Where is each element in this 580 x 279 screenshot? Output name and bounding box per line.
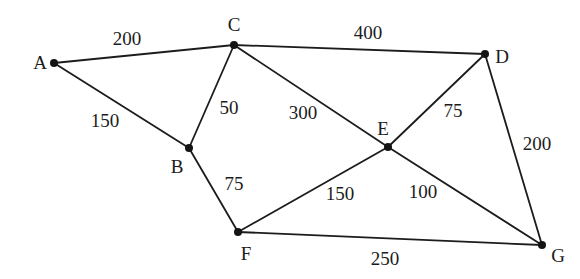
edge-A-C [54, 45, 234, 63]
edge-weight-A-B: 150 [91, 110, 120, 131]
node-D [481, 50, 489, 58]
edge-weight-E-G: 100 [409, 181, 438, 202]
edge-C-D [234, 45, 485, 54]
node-label-C: C [228, 14, 241, 35]
node-G [538, 241, 546, 249]
node-label-G: G [551, 245, 565, 266]
graph-diagram: 200150504003007520075150100250ABCDEFG [0, 0, 580, 279]
edge-F-G [238, 232, 542, 245]
node-C [230, 41, 238, 49]
edge-weight-D-G: 200 [523, 133, 552, 154]
edge-C-E [234, 45, 388, 147]
edge-E-F [238, 147, 388, 232]
edge-weight-E-F: 150 [326, 183, 355, 204]
node-B [185, 144, 193, 152]
edge-A-B [54, 63, 189, 148]
node-label-B: B [171, 156, 184, 177]
node-A [50, 59, 58, 67]
edge-weight-C-D: 400 [354, 22, 383, 43]
edge-D-E [388, 54, 485, 147]
graph-figure: 200150504003007520075150100250ABCDEFG [0, 0, 580, 279]
edge-weight-B-C: 50 [220, 97, 239, 118]
node-label-E: E [377, 118, 389, 139]
edge-weight-C-E: 300 [289, 102, 318, 123]
node-label-D: D [495, 46, 509, 67]
edge-weight-F-G: 250 [371, 248, 400, 269]
edge-weight-D-E: 75 [444, 100, 463, 121]
node-F [234, 228, 242, 236]
node-E [384, 143, 392, 151]
edge-weight-A-C: 200 [113, 28, 142, 49]
edge-weight-B-F: 75 [225, 173, 244, 194]
node-label-F: F [241, 243, 252, 264]
node-label-A: A [33, 52, 47, 73]
